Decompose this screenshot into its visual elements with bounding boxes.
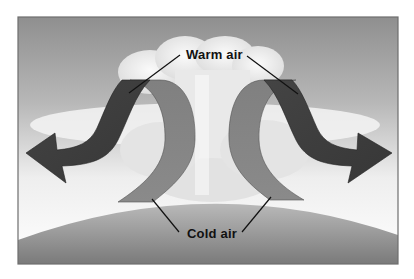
cold-air-label: Cold air (187, 226, 237, 241)
frontal-air-diagram: Warm air Cold air (0, 0, 414, 279)
warm-air-label: Warm air (186, 47, 243, 62)
